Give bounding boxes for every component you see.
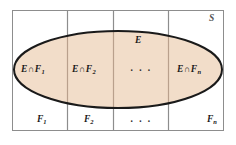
partition-label-n: Fn (207, 115, 217, 125)
intersection-n-subscript: n (197, 68, 201, 75)
intersection-1-subscript: 1 (41, 68, 44, 75)
partition-label-1: F1 (37, 115, 47, 125)
partition-2-subscript: 2 (90, 118, 93, 125)
intersection-2-operator: ∩ (79, 64, 86, 74)
intersection-1-prefix: E (21, 64, 28, 74)
event-e-label: E (135, 36, 141, 46)
venn-partition-diagram: S E E∩F1 E∩F2 · · · E∩Fn F1 F2 · · · Fn (0, 0, 236, 145)
intersection-n-operator: ∩ (184, 64, 191, 74)
intersection-ellipsis: · · · (130, 66, 152, 76)
partition-n-subscript: n (213, 118, 217, 125)
intersection-label-1: E∩F1 (21, 65, 45, 75)
intersection-1-operator: ∩ (28, 64, 35, 74)
partition-ellipsis: · · · (130, 117, 152, 127)
intersection-label-n: E∩Fn (177, 65, 201, 75)
partition-label-2: F2 (84, 115, 94, 125)
sample-space-label: S (209, 14, 214, 24)
intersection-n-prefix: E (177, 64, 184, 74)
partition-1-subscript: 1 (43, 118, 46, 125)
intersection-2-subscript: 2 (92, 68, 95, 75)
intersection-2-prefix: E (72, 64, 79, 74)
intersection-label-2: E∩F2 (72, 65, 96, 75)
